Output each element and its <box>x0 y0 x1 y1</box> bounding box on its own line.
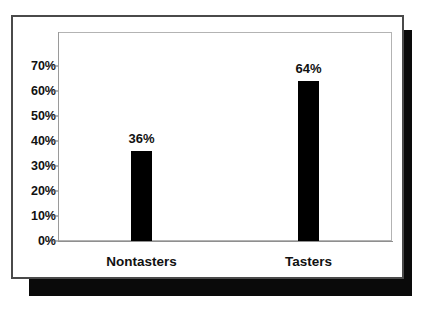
y-axis-tick-mark <box>53 191 58 192</box>
y-axis-labels: 70%60%50%40%30%20%10%0% <box>5 0 56 311</box>
category-label: Nontasters <box>106 255 177 269</box>
bar <box>298 81 319 241</box>
x-axis-baseline <box>58 241 393 242</box>
y-axis-tick-label: 50% <box>10 110 56 123</box>
y-axis-tick-mark <box>53 141 58 142</box>
category-label: Tasters <box>285 255 332 269</box>
bar-chart-figure: 70%60%50%40%30%20%10%0% 36%64% Nontaster… <box>0 0 429 311</box>
y-axis-tick-mark <box>53 241 58 242</box>
y-axis-tick-mark <box>53 116 58 117</box>
plot-area <box>58 32 392 241</box>
bar-value-label: 64% <box>295 62 321 75</box>
y-axis-tick-mark <box>53 66 58 67</box>
y-axis-tick-label: 10% <box>10 210 56 223</box>
y-axis-line <box>58 32 59 242</box>
y-axis-tick-label: 70% <box>10 60 56 73</box>
y-axis-tick-label: 60% <box>10 85 56 98</box>
y-axis-tick-label: 40% <box>10 135 56 148</box>
y-axis-tick-label: 20% <box>10 185 56 198</box>
bar <box>131 151 152 241</box>
y-axis-tick-mark <box>53 166 58 167</box>
y-axis-tick-mark <box>53 91 58 92</box>
y-axis-tick-mark <box>53 216 58 217</box>
y-axis-tick-label: 30% <box>10 160 56 173</box>
bar-value-label: 36% <box>128 132 154 145</box>
y-axis-tick-label: 0% <box>10 235 56 248</box>
